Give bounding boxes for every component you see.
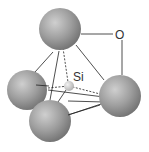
oxygen-atom-right	[99, 75, 141, 117]
oxygen-atom-bottom	[29, 100, 71, 142]
oxygen-label: O	[115, 28, 124, 42]
oxygen-atom-top	[39, 8, 81, 50]
sio4-tetrahedron-diagram: O Si	[0, 0, 149, 152]
silicon-label: Si	[73, 70, 84, 84]
tetrahedron-svg: O Si	[0, 0, 149, 152]
